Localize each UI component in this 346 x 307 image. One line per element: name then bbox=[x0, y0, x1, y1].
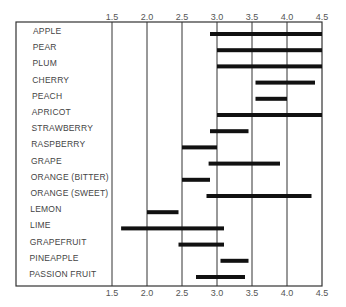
range-bar bbox=[221, 259, 249, 263]
range-bar bbox=[217, 48, 322, 52]
category-label: APRICOT bbox=[32, 107, 71, 117]
category-label: STRAWBERRY bbox=[32, 123, 94, 133]
range-bar bbox=[210, 32, 322, 36]
range-bar bbox=[121, 226, 224, 230]
x-tick-label-top: 3.5 bbox=[246, 12, 259, 22]
x-tick-label-bottom: 4.0 bbox=[281, 288, 294, 298]
range-bar bbox=[217, 113, 322, 117]
category-label: PASSION FRUIT bbox=[29, 269, 96, 279]
category-label: ORANGE (BITTER) bbox=[31, 172, 109, 182]
x-tick-label-bottom: 3.5 bbox=[246, 288, 259, 298]
category-label: CHERRY bbox=[32, 75, 69, 85]
range-bar bbox=[256, 97, 288, 101]
category-label: PLUM bbox=[33, 58, 57, 68]
x-tick-label-top: 2.5 bbox=[176, 12, 189, 22]
range-bar bbox=[210, 129, 249, 133]
range-bar bbox=[179, 243, 225, 247]
category-label: APPLE bbox=[33, 26, 62, 36]
x-tick-label-bottom: 4.5 bbox=[316, 288, 329, 298]
category-label: ORANGE (SWEET) bbox=[31, 188, 109, 198]
range-bar bbox=[196, 275, 245, 279]
top-axis-ticks: 1.52.02.53.03.54.04.5 bbox=[106, 12, 329, 22]
range-bar bbox=[182, 145, 217, 149]
range-bar bbox=[147, 210, 179, 214]
category-label: GRAPE bbox=[31, 156, 62, 166]
x-tick-label-bottom: 1.5 bbox=[106, 288, 119, 298]
category-label: RASPBERRY bbox=[31, 139, 85, 149]
category-label: PEACH bbox=[32, 91, 62, 101]
x-tick-label-top: 2.0 bbox=[141, 12, 154, 22]
x-tick-label-top: 4.5 bbox=[316, 12, 329, 22]
bottom-axis-ticks: 1.52.02.53.03.54.04.5 bbox=[106, 288, 329, 298]
category-label: PEAR bbox=[33, 42, 57, 52]
category-labels: APPLEPEARPLUMCHERRYPEACHAPRICOTSTRAWBERR… bbox=[29, 26, 109, 279]
range-bar bbox=[217, 64, 322, 68]
category-label: LIME bbox=[30, 220, 51, 230]
x-tick-label-bottom: 3.0 bbox=[211, 288, 224, 298]
range-bar bbox=[209, 162, 280, 166]
x-tick-label-top: 3.0 bbox=[211, 12, 224, 22]
x-tick-label-top: 1.5 bbox=[106, 12, 119, 22]
category-label: LEMON bbox=[30, 204, 61, 214]
range-bar bbox=[182, 178, 210, 182]
x-tick-label-top: 4.0 bbox=[281, 12, 294, 22]
bars bbox=[121, 32, 322, 279]
range-bar bbox=[207, 194, 312, 198]
category-label: GRAPEFRUIT bbox=[30, 237, 87, 247]
x-tick-label-bottom: 2.5 bbox=[176, 288, 189, 298]
fruit-range-chart: APPLEPEARPLUMCHERRYPEACHAPRICOTSTRAWBERR… bbox=[0, 0, 346, 307]
x-tick-label-bottom: 2.0 bbox=[141, 288, 154, 298]
category-label: PINEAPPLE bbox=[30, 253, 79, 263]
range-bar bbox=[256, 81, 316, 85]
